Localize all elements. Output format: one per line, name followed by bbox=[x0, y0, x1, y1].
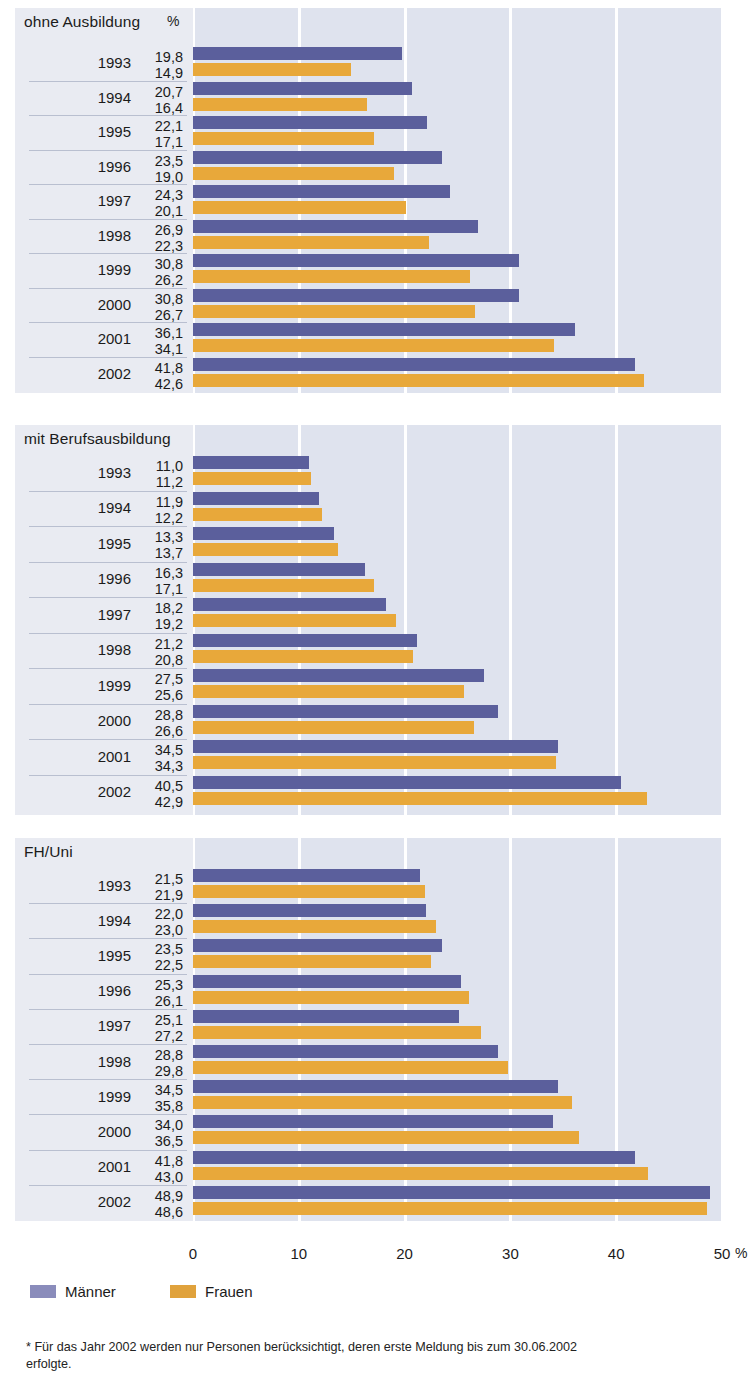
value-label-maenner: 21,2 bbox=[133, 637, 183, 652]
year-label: 1994 bbox=[15, 499, 131, 516]
value-label-maenner: 28,8 bbox=[133, 708, 183, 723]
chart-footnote: * Für das Jahr 2002 werden nur Personen … bbox=[26, 1339, 726, 1373]
row-separator bbox=[29, 704, 187, 705]
value-label-frauen: 16,4 bbox=[133, 101, 183, 116]
row-separator bbox=[29, 322, 187, 323]
bar-maenner bbox=[193, 1045, 498, 1058]
chart-container: ohne Ausbildung%199319,814,9199420,716,4… bbox=[0, 0, 756, 1376]
year-group: 199311,011,2 bbox=[15, 455, 193, 491]
year-group: 200034,036,5 bbox=[15, 1114, 193, 1149]
year-group: 200030,826,7 bbox=[15, 288, 193, 323]
year-group: 200028,826,6 bbox=[15, 704, 193, 740]
bar-frauen bbox=[193, 1061, 508, 1074]
panel-unit-label: % bbox=[167, 13, 179, 29]
bar-frauen bbox=[193, 508, 322, 521]
row-separator bbox=[29, 1185, 187, 1186]
year-label: 2002 bbox=[15, 365, 131, 382]
value-label-maenner: 25,1 bbox=[133, 1013, 183, 1028]
value-label-maenner: 24,3 bbox=[133, 188, 183, 203]
bar-maenner bbox=[193, 598, 386, 611]
bar-maenner bbox=[193, 776, 621, 789]
value-label-frauen: 36,5 bbox=[133, 1134, 183, 1149]
gridline bbox=[721, 838, 722, 1221]
value-label-frauen: 26,6 bbox=[133, 724, 183, 739]
bar-maenner bbox=[193, 705, 498, 718]
gridline bbox=[721, 8, 722, 393]
bar-maenner bbox=[193, 1151, 635, 1164]
year-label: 1998 bbox=[15, 227, 131, 244]
x-axis-tick: 30 bbox=[502, 1245, 519, 1262]
panel-plot-area bbox=[193, 425, 722, 815]
value-label-frauen: 42,9 bbox=[133, 795, 183, 810]
year-label: 1997 bbox=[15, 1017, 131, 1034]
panel-title: FH/Uni bbox=[24, 843, 73, 861]
bar-frauen bbox=[193, 98, 367, 111]
year-label: 1997 bbox=[15, 606, 131, 623]
bar-maenner bbox=[193, 634, 417, 647]
bar-maenner bbox=[193, 1010, 459, 1023]
value-label-frauen: 19,0 bbox=[133, 170, 183, 185]
x-axis-tick: 50 bbox=[714, 1245, 731, 1262]
value-label-maenner: 21,5 bbox=[133, 872, 183, 887]
row-separator bbox=[29, 1114, 187, 1115]
panel-plot-area bbox=[193, 838, 722, 1221]
bar-frauen bbox=[193, 1026, 481, 1039]
bar-maenner bbox=[193, 869, 420, 882]
year-label: 1994 bbox=[15, 89, 131, 106]
year-label: 1993 bbox=[15, 54, 131, 71]
value-label-maenner: 27,5 bbox=[133, 672, 183, 687]
value-label-frauen: 35,8 bbox=[133, 1099, 183, 1114]
value-label-frauen: 19,2 bbox=[133, 617, 183, 632]
year-label: 1996 bbox=[15, 570, 131, 587]
row-separator bbox=[29, 903, 187, 904]
panel-title: ohne Ausbildung bbox=[24, 13, 140, 31]
value-label-frauen: 12,2 bbox=[133, 511, 183, 526]
bar-frauen bbox=[193, 132, 374, 145]
year-label: 1998 bbox=[15, 641, 131, 658]
value-label-frauen: 13,7 bbox=[133, 546, 183, 561]
value-label-frauen: 22,5 bbox=[133, 958, 183, 973]
bar-frauen bbox=[193, 236, 429, 249]
value-label-maenner: 25,3 bbox=[133, 978, 183, 993]
year-label: 2001 bbox=[15, 1158, 131, 1175]
legend-swatch-m bbox=[30, 1285, 56, 1298]
year-group: 200141,843,0 bbox=[15, 1150, 193, 1185]
year-label: 2002 bbox=[15, 1193, 131, 1210]
row-separator bbox=[29, 775, 187, 776]
panel-title: mit Berufsausbildung bbox=[24, 430, 171, 448]
year-group: 199934,535,8 bbox=[15, 1079, 193, 1114]
bar-maenner bbox=[193, 116, 427, 129]
x-axis: 01020304050% bbox=[0, 1245, 756, 1285]
bar-frauen bbox=[193, 374, 644, 387]
year-group: 200241,842,6 bbox=[15, 357, 193, 392]
bar-frauen bbox=[193, 305, 475, 318]
year-group: 199821,220,8 bbox=[15, 633, 193, 669]
bar-maenner bbox=[193, 1080, 558, 1093]
value-label-frauen: 20,1 bbox=[133, 204, 183, 219]
year-label: 2002 bbox=[15, 783, 131, 800]
bar-maenner bbox=[193, 740, 558, 753]
year-group: 200240,542,9 bbox=[15, 775, 193, 811]
year-group: 199411,912,2 bbox=[15, 491, 193, 527]
bar-frauen bbox=[193, 885, 425, 898]
year-label: 1999 bbox=[15, 677, 131, 694]
year-group: 199724,320,1 bbox=[15, 184, 193, 219]
value-label-maenner: 34,5 bbox=[133, 1083, 183, 1098]
value-label-maenner: 22,0 bbox=[133, 907, 183, 922]
bar-frauen bbox=[193, 63, 351, 76]
bar-maenner bbox=[193, 289, 519, 302]
row-separator bbox=[29, 150, 187, 151]
bar-frauen bbox=[193, 991, 469, 1004]
year-group: 199522,117,1 bbox=[15, 115, 193, 150]
bar-frauen bbox=[193, 472, 311, 485]
value-label-frauen: 48,6 bbox=[133, 1205, 183, 1220]
value-label-maenner: 28,8 bbox=[133, 1048, 183, 1063]
bar-maenner bbox=[193, 323, 575, 336]
year-group: 199930,826,2 bbox=[15, 253, 193, 288]
value-label-maenner: 36,1 bbox=[133, 326, 183, 341]
row-separator bbox=[29, 1079, 187, 1080]
value-label-frauen: 11,2 bbox=[133, 475, 183, 490]
row-separator bbox=[29, 219, 187, 220]
x-axis-tick: 40 bbox=[608, 1245, 625, 1262]
year-label: 2000 bbox=[15, 296, 131, 313]
